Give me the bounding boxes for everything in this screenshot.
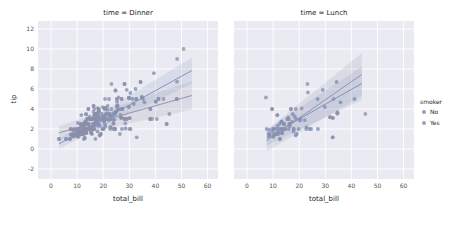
y-axis-label: tip xyxy=(10,79,18,119)
y-tick-label: 12 xyxy=(10,25,34,32)
x-tick-label: 60 xyxy=(198,182,218,189)
x-tick-label: 20 xyxy=(289,182,309,189)
x-tick-label: 30 xyxy=(119,182,139,189)
facet-title-dinner: time = Dinner xyxy=(38,9,218,17)
legend-label: No xyxy=(430,108,438,115)
x-tick-label: 40 xyxy=(145,182,165,189)
x-axis-label-dinner: total_bill xyxy=(38,195,218,203)
legend-item-yes[interactable]: Yes xyxy=(422,119,440,126)
x-tick-label: 0 xyxy=(237,182,257,189)
x-tick-label: 50 xyxy=(171,182,191,189)
lmplot-figure: time = Dinner -2024681012 tip 0102030405… xyxy=(0,0,461,225)
y-tick-label: -2 xyxy=(10,165,34,172)
x-tick-label: 50 xyxy=(367,182,387,189)
plot-area-lunch xyxy=(234,21,414,179)
x-tick-label: 0 xyxy=(41,182,61,189)
x-tick-label: 10 xyxy=(67,182,87,189)
y-tick-label: 10 xyxy=(10,45,34,52)
x-axis-label-lunch: total_bill xyxy=(234,195,414,203)
facet-title-lunch: time = Lunch xyxy=(234,9,414,17)
x-tick-label: 30 xyxy=(315,182,335,189)
x-tick-label: 40 xyxy=(341,182,361,189)
x-tick-label: 10 xyxy=(263,182,283,189)
x-tick-label: 60 xyxy=(394,182,414,189)
legend-label: Yes xyxy=(430,119,440,126)
legend-title: smoker xyxy=(420,98,442,105)
y-tick-label: 2 xyxy=(10,125,34,132)
y-tick-label: 8 xyxy=(10,65,34,72)
scatter-panel-dinner xyxy=(38,21,218,179)
scatter-panel-lunch xyxy=(234,21,414,179)
legend-marker-icon xyxy=(422,110,426,114)
legend-marker-icon xyxy=(422,121,426,125)
y-tick-label: 0 xyxy=(10,145,34,152)
legend-item-no[interactable]: No xyxy=(422,108,438,115)
plot-area-dinner xyxy=(38,21,218,179)
x-tick-label: 20 xyxy=(93,182,113,189)
